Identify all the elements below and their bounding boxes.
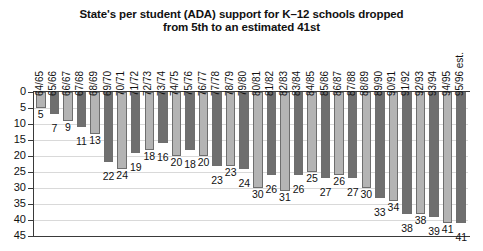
- bar[interactable]: [199, 92, 208, 156]
- bar[interactable]: [212, 92, 221, 166]
- y-axis-label: 40: [0, 214, 26, 225]
- x-axis-label: 71/72: [130, 71, 140, 96]
- y-axis-label: 20: [0, 150, 26, 161]
- bar-value-label: 26: [330, 176, 348, 187]
- x-axis-label: 88/89: [360, 71, 370, 96]
- y-axis-label: 0: [0, 86, 26, 97]
- x-axis-label: 89/90: [374, 71, 384, 96]
- y-axis-label: 5: [0, 102, 26, 113]
- x-axis-label: 69/70: [103, 71, 113, 96]
- chart-title-line-2: from 5th to an estimated 41st: [0, 21, 483, 34]
- bar[interactable]: [239, 92, 248, 169]
- plot-area: [34, 92, 468, 236]
- bar[interactable]: [362, 92, 371, 188]
- bar[interactable]: [63, 92, 72, 121]
- chart-title: State's per student (ADA) support for K–…: [0, 8, 483, 34]
- bar-value-label: 34: [384, 202, 402, 213]
- bar[interactable]: [145, 92, 154, 150]
- bar[interactable]: [280, 92, 289, 191]
- bar[interactable]: [77, 92, 86, 127]
- x-axis-label: 74/75: [170, 71, 180, 96]
- x-axis-label: 79/80: [238, 71, 248, 96]
- bar-value-label: 9: [59, 122, 77, 133]
- y-axis-label: 45: [0, 230, 26, 241]
- bar[interactable]: [185, 92, 194, 150]
- bar[interactable]: [416, 92, 425, 214]
- x-axis-label: 92/93: [415, 71, 425, 96]
- x-axis-label: 87/88: [347, 71, 357, 96]
- y-axis-label: 25: [0, 166, 26, 177]
- bar-value-label: 41: [452, 232, 470, 243]
- y-axis-label: 35: [0, 198, 26, 209]
- bar-value-label: 20: [195, 157, 213, 168]
- x-axis-label: 90/91: [387, 71, 397, 96]
- x-axis-label: 77/78: [211, 71, 221, 96]
- bar[interactable]: [158, 92, 167, 143]
- x-axis-label: 82/83: [279, 71, 289, 96]
- bar-value-label: 13: [86, 135, 104, 146]
- x-axis-label: 83/84: [292, 71, 302, 96]
- bar[interactable]: [348, 92, 357, 178]
- bar-value-label: 27: [317, 187, 335, 198]
- bar[interactable]: [172, 92, 181, 156]
- x-axis-label: 80/81: [252, 71, 262, 96]
- bar[interactable]: [253, 92, 262, 188]
- bar-value-label: 25: [303, 173, 321, 184]
- x-axis-label: 65/66: [48, 71, 58, 96]
- bar[interactable]: [294, 92, 303, 175]
- gridline: [34, 220, 468, 221]
- bar[interactable]: [131, 92, 140, 153]
- bar[interactable]: [375, 92, 384, 198]
- bar[interactable]: [389, 92, 398, 201]
- x-axis-label: 76/77: [198, 71, 208, 96]
- bar[interactable]: [443, 92, 452, 223]
- bar[interactable]: [104, 92, 113, 162]
- bar[interactable]: [90, 92, 99, 134]
- bar-value-label: 26: [289, 184, 307, 195]
- x-axis-label: 70/71: [116, 71, 126, 96]
- bar[interactable]: [307, 92, 316, 172]
- x-axis-label: 68/69: [89, 71, 99, 96]
- bar-value-label: 30: [357, 189, 375, 200]
- bar[interactable]: [402, 92, 411, 214]
- x-axis-line-bottom: [33, 236, 470, 237]
- y-axis-tick: [28, 236, 34, 237]
- bar-value-label: 38: [412, 215, 430, 226]
- x-axis-label: 84/85: [306, 71, 316, 96]
- x-axis-label: 78/79: [225, 71, 235, 96]
- x-axis-label: 66/67: [62, 71, 72, 96]
- x-axis-label: 64/65: [35, 71, 45, 96]
- x-axis-label: 73/74: [157, 71, 167, 96]
- bar[interactable]: [456, 92, 465, 223]
- bar-value-label: 23: [222, 167, 240, 178]
- x-axis-label: 75/76: [184, 71, 194, 96]
- bar-value-label: 24: [235, 178, 253, 189]
- bar-value-label: 19: [127, 162, 145, 173]
- x-axis-label: 85/86: [320, 71, 330, 96]
- bar[interactable]: [226, 92, 235, 166]
- x-axis-label: 95/96 est.: [455, 52, 465, 96]
- y-axis-label: 10: [0, 118, 26, 129]
- bar[interactable]: [429, 92, 438, 217]
- x-axis-label: 91/92: [401, 71, 411, 96]
- y-axis-label: 30: [0, 182, 26, 193]
- bar[interactable]: [321, 92, 330, 178]
- x-axis-label: 93/94: [428, 71, 438, 96]
- x-axis-label: 86/87: [333, 71, 343, 96]
- x-axis-label: 94/95: [442, 71, 452, 96]
- x-axis-label: 72/73: [143, 71, 153, 96]
- bar-value-label: 5: [32, 109, 50, 120]
- y-axis-label: 15: [0, 134, 26, 145]
- x-axis-label: 67/68: [75, 71, 85, 96]
- chart-title-line-1: State's per student (ADA) support for K–…: [0, 8, 483, 21]
- bar[interactable]: [334, 92, 343, 175]
- bar[interactable]: [267, 92, 276, 175]
- bar[interactable]: [117, 92, 126, 169]
- x-axis-label: 81/82: [265, 71, 275, 96]
